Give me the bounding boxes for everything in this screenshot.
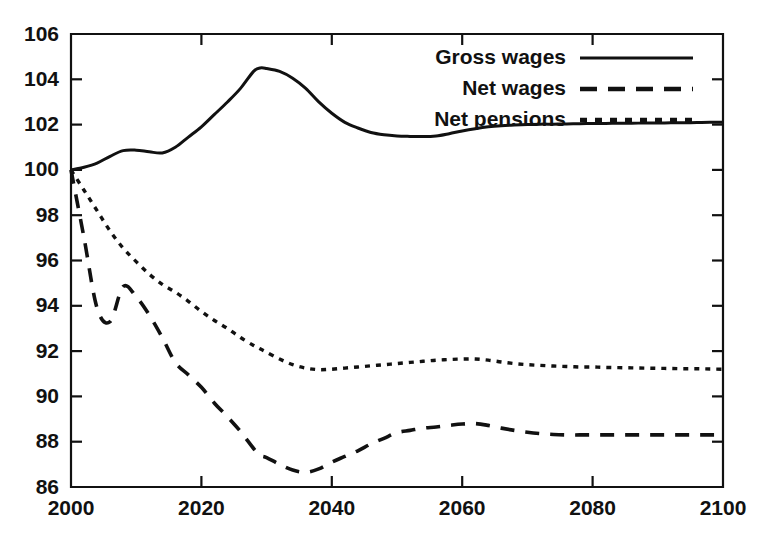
y-tick-label: 90 [36,384,59,407]
legend-label-net-pensions: Net pensions [434,107,566,130]
y-tick-label: 94 [36,293,60,316]
y-tick-label: 98 [36,203,60,226]
chart-container: 86889092949698100102104106 2000202020402… [0,0,766,546]
x-axis-tick-labels: 200020202040206020802100 [48,496,747,519]
legend-label-net-wages: Net wages [462,76,566,99]
y-tick-label: 96 [36,248,59,271]
y-tick-label: 88 [36,429,60,452]
line-chart: 86889092949698100102104106 2000202020402… [0,0,766,546]
series-line-net-wages [71,170,723,472]
chart-legend: Gross wagesNet wagesNet pensions [434,45,693,130]
x-tick-label: 2020 [178,496,225,519]
y-axis-tick-labels: 86889092949698100102104106 [24,22,59,498]
legend-label-gross-wages: Gross wages [435,45,566,68]
x-tick-label: 2080 [569,496,616,519]
x-tick-label: 2000 [48,496,95,519]
x-tick-label: 2060 [439,496,486,519]
data-series-group [71,68,723,473]
y-tick-label: 86 [36,475,59,498]
x-tick-label: 2100 [700,496,747,519]
y-tick-label: 106 [24,22,59,45]
series-line-net-pensions [71,170,723,370]
y-tick-label: 100 [24,157,59,180]
y-tick-label: 104 [24,67,59,90]
x-tick-label: 2040 [308,496,355,519]
axis-tick-marks [71,34,723,487]
y-tick-label: 102 [24,112,59,135]
plot-frame [71,34,723,487]
y-tick-label: 92 [36,339,59,362]
